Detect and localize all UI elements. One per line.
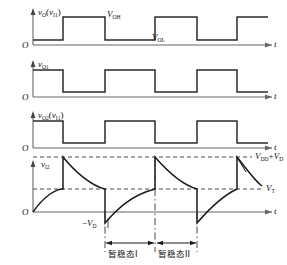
trace-1-vol-label: VOL xyxy=(152,33,165,42)
trace-2-time-label: t xyxy=(274,92,277,101)
interval-2-label: 暂稳态II xyxy=(158,250,190,259)
trace-2-waveform xyxy=(33,70,268,92)
trace-1-signal-label: vO(vI1) xyxy=(38,8,61,17)
trace-2-value-axis-arrowhead xyxy=(31,60,36,67)
trace-4-axis-arrowhead xyxy=(265,209,272,214)
trace-3-group xyxy=(31,111,272,151)
trace-1-axis-arrowhead xyxy=(265,42,272,47)
trace-4-negative-label: −VD xyxy=(82,219,97,228)
interval-2-arrow-right xyxy=(190,241,196,245)
trace-4-waveform xyxy=(33,157,262,223)
trace-3-origin-label: O xyxy=(22,144,29,153)
trace-4-time-label: t xyxy=(274,207,277,216)
trace-1-origin-label: O xyxy=(22,41,29,50)
trace-3-value-axis-arrowhead xyxy=(31,111,36,118)
trace-4-peak-label: VDD+VD xyxy=(255,152,283,161)
trace-3-waveform xyxy=(33,121,268,143)
trace-4-signal-label: vI2 xyxy=(41,160,50,169)
trace-2-axis-arrowhead xyxy=(265,94,272,99)
interval-1-arrow-right xyxy=(148,241,154,245)
trace-2-signal-label: vO1 xyxy=(38,60,49,69)
trace-4-origin-label: O xyxy=(22,208,29,217)
interval-1-label: 暂稳态I xyxy=(108,250,138,259)
peak-label-leader-line xyxy=(238,159,246,172)
trace-1-time-label: t xyxy=(274,40,277,49)
trace-4-group xyxy=(31,157,272,252)
trace-2-group xyxy=(31,60,272,100)
trace-4-threshold-label: VT xyxy=(266,184,275,193)
trace-2-origin-label: O xyxy=(22,93,29,102)
waveform-canvas xyxy=(0,0,287,265)
trace-1-waveform xyxy=(33,17,268,40)
trace-1-value-axis-arrowhead xyxy=(31,8,36,15)
interval-2-arrow-left xyxy=(157,241,163,245)
waveform-figure: vO(vI1) VOH VOL O t vO1 O t vO2(vI1) O t… xyxy=(0,0,287,265)
trace-3-signal-label: vO2(vI1) xyxy=(38,111,63,120)
trace-4-value-axis-arrowhead xyxy=(31,160,36,167)
trace-1-voh-label: VOH xyxy=(107,10,121,19)
interval-1-arrow-left xyxy=(106,241,112,245)
trace-3-axis-arrowhead xyxy=(265,145,272,150)
